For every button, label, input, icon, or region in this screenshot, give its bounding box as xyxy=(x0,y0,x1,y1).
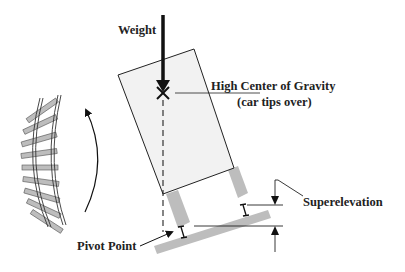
cog-label-line1: High Center of Gravity xyxy=(211,80,335,93)
right-wheel xyxy=(228,166,248,198)
car-body xyxy=(118,49,234,194)
weight-label: Weight xyxy=(118,24,156,37)
left-wheel xyxy=(166,190,190,228)
tipping-diagram xyxy=(0,0,405,272)
cog-label-line2: (car tips over) xyxy=(237,96,312,109)
superelevation-label: Superelevation xyxy=(303,196,383,209)
curved-track-icon xyxy=(21,95,66,233)
curve-direction-arrow xyxy=(85,110,98,212)
pivot-point-label: Pivot Point xyxy=(77,240,136,253)
